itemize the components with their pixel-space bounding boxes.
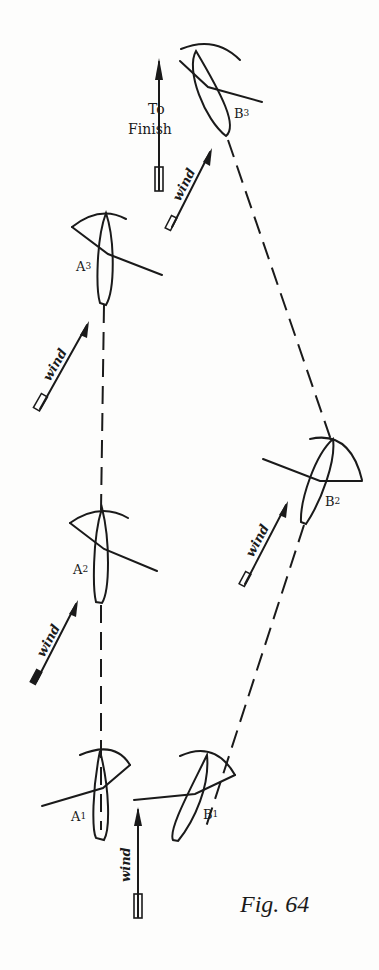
boat-label-B2: B2 (325, 494, 340, 509)
wind-label-bottom: wind (118, 847, 133, 882)
sail-boom (42, 765, 130, 806)
boat-B3 (180, 44, 262, 136)
sail-boom (134, 775, 235, 800)
boat-B1 (134, 751, 235, 841)
diagram-svg: To Finish B3 wind A3 wind B2 wind (0, 0, 379, 970)
hull (94, 508, 108, 603)
hull (193, 51, 230, 136)
sailing-diagram: To Finish B3 wind A3 wind B2 wind (0, 0, 379, 970)
boat-label-A1: A1 (70, 809, 86, 824)
course-line-A (101, 305, 104, 830)
hull (172, 755, 207, 841)
hull (98, 213, 113, 305)
wind-label-A2: wind (33, 622, 63, 660)
boat-label-A2: A2 (72, 562, 88, 577)
boat-A2 (70, 508, 157, 603)
boat-label-A3: A3 (75, 259, 91, 274)
to-finish-label-finish: Finish (128, 121, 172, 137)
boat-A3 (72, 213, 162, 305)
figure-caption: Fig. 64 (239, 891, 309, 917)
wind-arrow-bottom (134, 807, 142, 918)
boat-B2 (263, 438, 362, 524)
arrowhead-icon (155, 58, 163, 80)
boat-label-B3: B3 (234, 106, 250, 121)
sail-arc (72, 214, 126, 227)
sail-arc (80, 749, 130, 765)
to-finish-label-to: To (148, 101, 165, 117)
boat-A1 (42, 749, 130, 840)
course-line-B (205, 140, 331, 830)
sail-arc (181, 44, 240, 60)
boat-label-B1: B1 (203, 807, 218, 822)
